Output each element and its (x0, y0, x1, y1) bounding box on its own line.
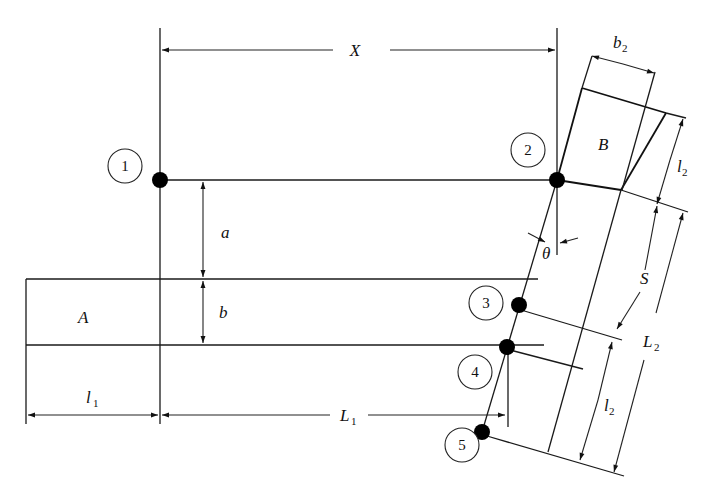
svg-text:1: 1 (93, 397, 99, 409)
dimension-L1 (162, 347, 508, 427)
svg-text:b: b (613, 33, 622, 52)
svg-text:L: L (642, 332, 652, 351)
label-theta: θ (542, 244, 550, 263)
label-l2-bottom: l 2 (604, 396, 615, 417)
svg-text:2: 2 (524, 142, 532, 158)
svg-text:2: 2 (609, 405, 615, 417)
angle-theta (528, 233, 578, 243)
label-s: S (640, 269, 649, 288)
svg-text:4: 4 (471, 364, 479, 380)
joint-dot-3 (511, 297, 527, 313)
node-label-5: 5 (445, 428, 479, 462)
link-4-perp (510, 350, 583, 369)
svg-text:2: 2 (654, 341, 660, 353)
svg-text:3: 3 (482, 295, 490, 311)
label-x: X (349, 41, 361, 60)
joint-dot-2 (549, 172, 565, 188)
label-a: a (221, 223, 230, 242)
label-l2-top: l 2 (677, 157, 688, 178)
label-region-a: A (77, 308, 89, 327)
node-label-3: 3 (469, 286, 503, 320)
svg-text:5: 5 (458, 437, 466, 453)
joint-dot-1 (152, 172, 168, 188)
dimension-b2 (592, 56, 654, 73)
label-l1: l 1 (86, 388, 99, 409)
schematic-diagram: 1 2 3 4 5 X a b A B l 1 L 1 b 2 l 2 S L … (0, 0, 713, 496)
node-label-2: 2 (511, 133, 545, 167)
dimension-s (617, 206, 657, 329)
region-a (26, 279, 544, 424)
link-5-perp (487, 436, 624, 476)
b2-extension-right (622, 72, 655, 190)
label-L1: L 1 (339, 406, 357, 427)
label-region-b: B (598, 135, 609, 154)
svg-text:1: 1 (351, 415, 357, 427)
label-L2: L 2 (642, 332, 660, 353)
svg-text:2: 2 (622, 42, 628, 54)
svg-text:1: 1 (121, 158, 129, 174)
node-label-1: 1 (108, 149, 142, 183)
link-3-perp (521, 310, 622, 340)
b2-extension-left (582, 56, 592, 88)
svg-text:2: 2 (682, 166, 688, 178)
svg-text:l: l (86, 388, 91, 407)
label-b: b (219, 303, 228, 322)
node-label-4: 4 (458, 355, 492, 389)
l2-top-ext-lower (621, 190, 688, 212)
svg-text:L: L (339, 406, 349, 425)
region-b (557, 88, 666, 190)
l2-top-ext-upper (666, 113, 686, 118)
joint-dot-4 (499, 339, 515, 355)
label-b2: b 2 (613, 33, 628, 54)
